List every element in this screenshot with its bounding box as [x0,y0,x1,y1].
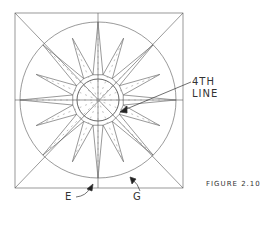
e-arrowhead [87,184,93,191]
label-e: E [65,192,72,202]
star-point-centerline [72,100,98,162]
star-point-centerline [43,45,98,100]
label-g: G [133,192,142,202]
label-4th: 4TH [192,77,215,87]
star-point-centerline [98,100,160,126]
star-point-centerline [98,38,124,100]
figure-caption: FIGURE 2.10 [206,181,261,188]
star-point [72,38,93,79]
label-line: LINE [192,89,218,99]
arrows [76,82,191,197]
star-point [36,105,77,126]
g-arrowhead [130,177,136,184]
star-point [119,74,160,95]
star-point-centerline [98,74,160,100]
star-point [103,121,124,162]
star-point-centerline [36,100,98,126]
star-point-centerline [36,74,98,100]
star-point-centerline [43,100,98,155]
star-point-centerline [98,100,124,162]
star-point [103,38,124,79]
star-point [36,74,77,95]
star-point [72,121,93,162]
star-point-centerline [72,38,98,100]
